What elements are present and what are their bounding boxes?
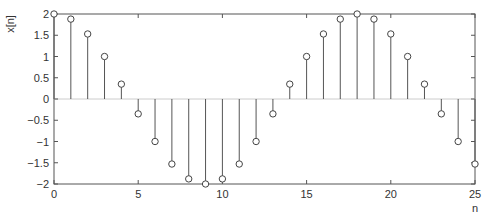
stem-marker xyxy=(135,111,141,117)
y-tick-label: −2 xyxy=(36,178,49,190)
stem-marker xyxy=(421,81,427,87)
stem-marker xyxy=(388,31,394,37)
y-tick-label: −1.5 xyxy=(27,157,49,169)
stem-marker xyxy=(236,161,242,167)
stem-marker xyxy=(186,176,192,182)
stem-marker xyxy=(152,138,158,144)
stem-marker xyxy=(455,138,461,144)
stem-marker xyxy=(169,161,175,167)
y-tick-label: 0 xyxy=(43,93,49,105)
stem-marker xyxy=(354,11,360,17)
stem-marker xyxy=(404,53,410,59)
stem-marker xyxy=(337,16,343,22)
stem-marker xyxy=(270,111,276,117)
stem-marker xyxy=(101,53,107,59)
x-tick-label: 25 xyxy=(469,188,481,200)
stem-marker xyxy=(118,81,124,87)
stem-marker xyxy=(84,31,90,37)
stem-marker xyxy=(303,53,309,59)
stem-marker xyxy=(253,138,259,144)
stem-plot: 0510152025−2−1.5−1−0.500.511.52nx[n] xyxy=(0,0,499,214)
stem-marker xyxy=(219,176,225,182)
x-tick-label: 10 xyxy=(216,188,228,200)
stem-marker xyxy=(202,181,208,187)
stem-marker xyxy=(371,16,377,22)
x-tick-label: 20 xyxy=(385,188,397,200)
stem-marker xyxy=(472,161,478,167)
stem-marker xyxy=(68,16,74,22)
x-tick-label: 15 xyxy=(300,188,312,200)
y-tick-label: 2 xyxy=(43,8,49,20)
y-tick-label: 0.5 xyxy=(34,72,49,84)
x-axis-label: n xyxy=(472,202,478,214)
y-tick-label: −0.5 xyxy=(27,114,49,126)
y-tick-label: 1 xyxy=(43,51,49,63)
stem-marker xyxy=(51,11,57,17)
x-tick-label: 0 xyxy=(51,188,57,200)
y-tick-label: −1 xyxy=(36,136,49,148)
stem-marker xyxy=(438,111,444,117)
y-tick-label: 1.5 xyxy=(34,29,49,41)
stem-marker xyxy=(320,31,326,37)
y-axis-label: x[n] xyxy=(4,15,16,33)
stem-marker xyxy=(287,81,293,87)
x-tick-label: 5 xyxy=(135,188,141,200)
